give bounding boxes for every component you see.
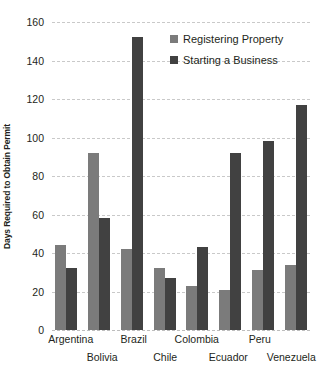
- y-tick-label-0: 0: [38, 324, 44, 336]
- bar-chart: Days Required to Obtain Permit 020406080…: [0, 0, 320, 373]
- legend-label-series-1: Starting a Business: [183, 54, 278, 66]
- bar-group-peru: [252, 22, 274, 330]
- bar-argentina-series-0[interactable]: [55, 245, 66, 330]
- y-tick-label-40: 40: [32, 247, 44, 259]
- x-tick-label-peru: Peru: [249, 333, 271, 345]
- x-tick-label-chile: Chile: [153, 351, 177, 363]
- bar-brazil-series-1[interactable]: [132, 37, 143, 330]
- bar-colombia-series-1[interactable]: [197, 247, 208, 330]
- y-tick-label-160: 160: [26, 16, 44, 28]
- legend-label-series-0: Registering Property: [183, 33, 283, 45]
- plot-area: [52, 22, 310, 330]
- bar-group-chile: [154, 22, 176, 330]
- y-tick-label-120: 120: [26, 93, 44, 105]
- bar-chile-series-1[interactable]: [165, 278, 176, 330]
- chart-legend: Registering Property Starting a Business: [170, 33, 283, 66]
- series-1-swatch-icon: [170, 56, 178, 64]
- legend-item-starting-a-business[interactable]: Starting a Business: [170, 54, 283, 66]
- x-tick-label-brazil: Brazil: [121, 333, 147, 345]
- bar-chile-series-0[interactable]: [154, 268, 165, 330]
- bar-group-argentina: [55, 22, 77, 330]
- bar-ecuador-series-0[interactable]: [219, 290, 230, 330]
- y-tick-label-20: 20: [32, 286, 44, 298]
- x-tick-label-argentina: Argentina: [48, 333, 93, 345]
- bar-brazil-series-0[interactable]: [121, 249, 132, 330]
- bar-group-brazil: [121, 22, 143, 330]
- bar-peru-series-1[interactable]: [263, 141, 274, 330]
- bar-groups: [52, 22, 310, 330]
- y-tick-label-140: 140: [26, 55, 44, 67]
- x-tick-label-colombia: Colombia: [175, 333, 219, 345]
- x-tick-label-ecuador: Ecuador: [209, 351, 248, 363]
- y-tick-label-80: 80: [32, 170, 44, 182]
- y-tick-label-60: 60: [32, 209, 44, 221]
- bar-group-colombia: [186, 22, 208, 330]
- bar-argentina-series-1[interactable]: [66, 268, 77, 330]
- bar-bolivia-series-0[interactable]: [88, 153, 99, 330]
- bar-ecuador-series-1[interactable]: [230, 153, 241, 330]
- y-tick-label-100: 100: [26, 132, 44, 144]
- y-axis-tick-labels: 020406080100120140160: [0, 22, 48, 330]
- bar-group-venezuela: [285, 22, 307, 330]
- bar-group-ecuador: [219, 22, 241, 330]
- series-0-swatch-icon: [170, 35, 178, 43]
- x-tick-label-venezuela: Venezuela: [267, 351, 316, 363]
- bar-venezuela-series-0[interactable]: [285, 265, 296, 330]
- bar-venezuela-series-1[interactable]: [296, 105, 307, 330]
- bar-group-bolivia: [88, 22, 110, 330]
- bar-bolivia-series-1[interactable]: [99, 218, 110, 330]
- legend-item-registering-property[interactable]: Registering Property: [170, 33, 283, 45]
- x-axis-tick-labels: ArgentinaBoliviaBrazilChileColombiaEcuad…: [52, 331, 310, 373]
- x-tick-label-bolivia: Bolivia: [87, 351, 118, 363]
- bar-colombia-series-0[interactable]: [186, 286, 197, 330]
- bar-peru-series-0[interactable]: [252, 270, 263, 330]
